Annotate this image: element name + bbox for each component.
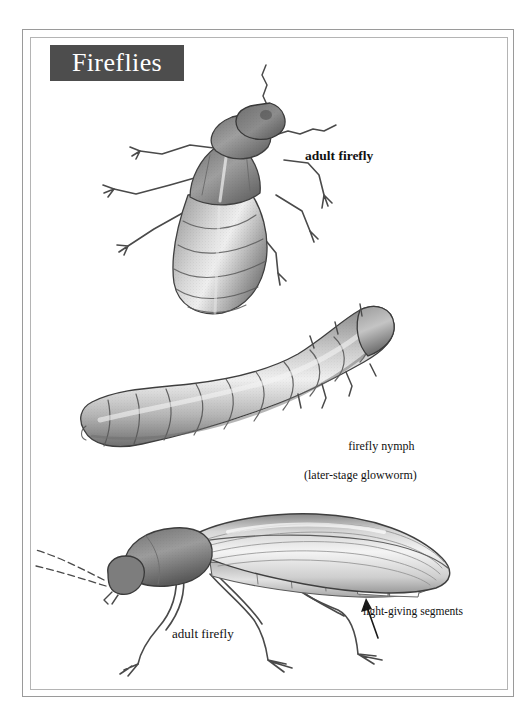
- page-frame-inner: [30, 37, 508, 690]
- page-title: Fireflies: [72, 50, 162, 76]
- label-light-giving-segments: light-giving segments: [363, 604, 463, 618]
- label-nymph-line2: (later-stage glowworm): [304, 468, 417, 483]
- label-nymph-line1: firefly nymph: [348, 439, 414, 453]
- label-firefly-nymph: firefly nymph (later-stage glowworm): [334, 424, 417, 512]
- label-adult-firefly-bottom: adult firefly: [172, 626, 234, 642]
- title-banner: Fireflies: [50, 45, 184, 81]
- label-adult-firefly-top: adult firefly: [305, 148, 373, 164]
